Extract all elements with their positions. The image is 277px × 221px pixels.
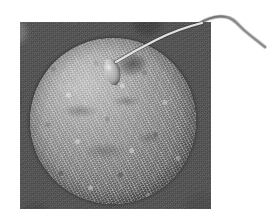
micrograph-figure (0, 0, 277, 221)
micrograph-plate (20, 22, 211, 209)
